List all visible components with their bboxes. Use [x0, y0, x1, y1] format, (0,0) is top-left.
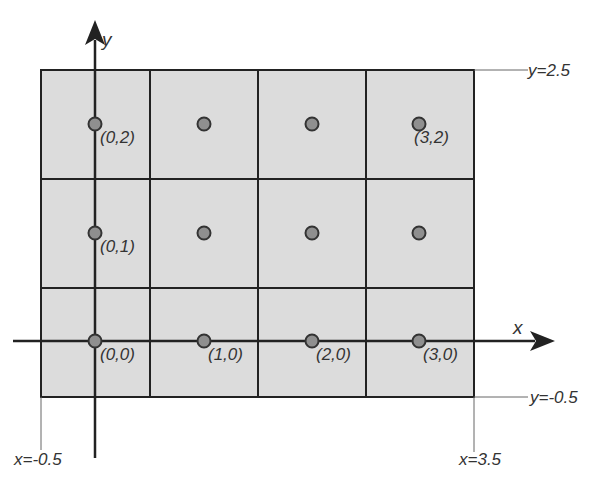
point-label-1-0: (1,0) [208, 346, 243, 363]
boundary-label-bottom: y=-0.5 [530, 389, 578, 406]
boundary-label-top: y=2.5 [528, 62, 570, 79]
point-label-2-0: (2,0) [316, 346, 351, 363]
point-label-3-2: (3,2) [414, 129, 449, 146]
point-2-2 [306, 118, 319, 131]
point-1-2 [198, 118, 211, 131]
point-2-1 [306, 227, 319, 240]
point-3-1 [413, 227, 426, 240]
diagram-canvas [0, 0, 606, 483]
point-label-0-2: (0,2) [100, 129, 135, 146]
point-label-0-1: (0,1) [100, 238, 135, 255]
y-axis-label: y [102, 30, 112, 49]
boundary-label-left: x=-0.5 [14, 451, 62, 468]
lattice-diagram: y x y=2.5 y=-0.5 x=-0.5 x=3.5 (0,2) (3,2… [0, 0, 606, 483]
boundary-label-right: x=3.5 [459, 451, 501, 468]
point-label-3-0: (3,0) [423, 346, 458, 363]
point-label-0-0: (0,0) [100, 346, 135, 363]
x-axis-label: x [513, 318, 523, 337]
point-1-1 [198, 227, 211, 240]
